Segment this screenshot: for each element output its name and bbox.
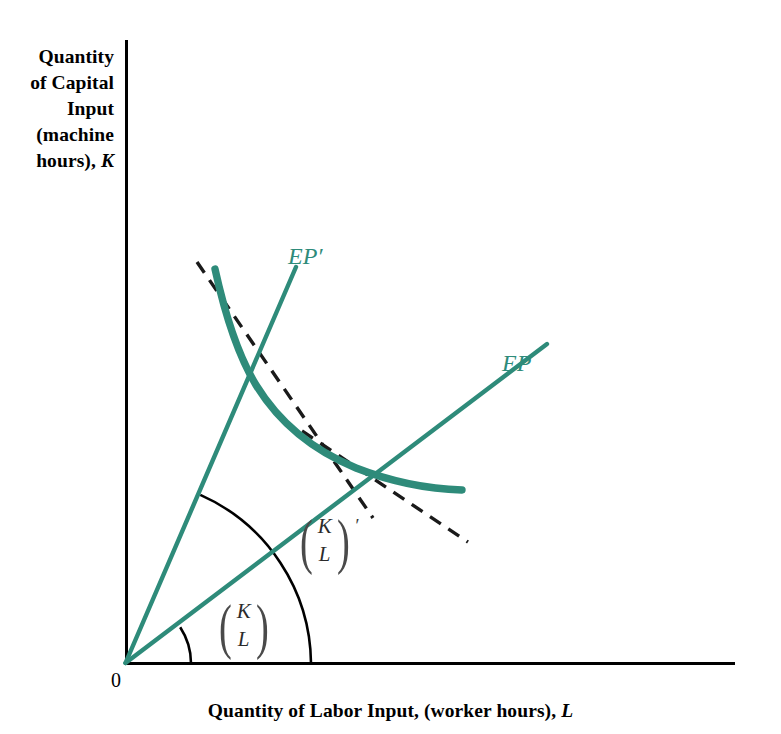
ratio-prime-mark: ′ [354, 515, 358, 537]
plot-canvas [0, 0, 781, 734]
x-axis-title-variable: L [561, 700, 573, 721]
angle-arc-kl [180, 627, 191, 663]
isoquant-expansion-path-figure: Quantity of Capital Input (machine hours… [0, 0, 781, 734]
origin-label: 0 [111, 669, 121, 692]
x-axis-title: Quantity of Labor Input, (worker hours),… [0, 700, 781, 722]
ratio-numerator: K [237, 598, 251, 626]
paren-open-icon: ( [219, 602, 232, 650]
ratio-fraction: K L [236, 598, 252, 653]
capital-labor-ratio-label: ( K L ) [215, 598, 272, 653]
paren-open-icon: ( [300, 517, 313, 565]
ratio-fraction: K L [317, 513, 333, 568]
x-axis-title-text: Quantity of Labor Input, (worker hours), [208, 700, 561, 721]
y-axis-title: Quantity of Capital Input (machine hours… [6, 44, 114, 174]
expansion-path-ray [126, 344, 548, 663]
paren-close-icon: ) [337, 517, 350, 565]
expansion-path-label: EP [502, 350, 531, 377]
ratio-numerator: K [318, 513, 332, 541]
paren-close-icon: ) [256, 602, 269, 650]
capital-labor-ratio-prime-label: ( K L ) ′ [296, 513, 358, 568]
expansion-path-prime-label: EP′ [288, 243, 323, 270]
ratio-denominator: L [319, 541, 331, 569]
isoquant-curve [215, 269, 462, 490]
ratio-denominator: L [238, 626, 250, 654]
y-axis-title-variable: K [101, 150, 114, 171]
